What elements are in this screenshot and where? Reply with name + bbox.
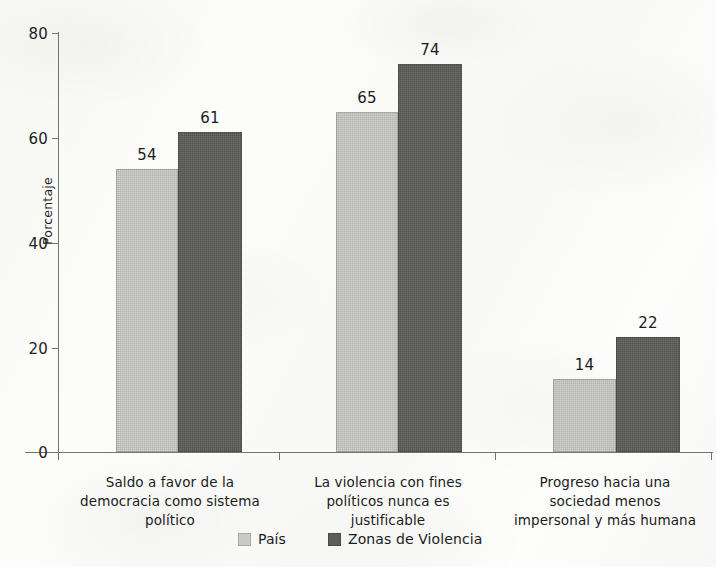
legend-swatch-pais-icon (238, 533, 251, 546)
x-tick-mark-3 (711, 452, 712, 460)
x-tick-mark-2 (495, 452, 496, 460)
x-category-label-2-line-3: impersonal y más humana (497, 511, 713, 530)
x-category-label-0-line-1: Saldo a favor de la (60, 473, 280, 492)
bar-zonas-2[interactable] (616, 337, 680, 452)
y-tick-mark-60 (52, 138, 59, 139)
bar-value-pais-2: 14 (553, 356, 616, 374)
x-axis-line (25, 452, 713, 453)
bar-texture (398, 64, 462, 452)
bar-texture (178, 132, 242, 452)
bar-value-zonas-2: 22 (616, 314, 680, 332)
bar-zonas-1[interactable] (398, 64, 462, 452)
bar-value-pais-0: 54 (116, 146, 178, 164)
y-tick-label-40: 40 (8, 235, 48, 253)
bar-zonas-0[interactable] (178, 132, 242, 452)
bar-texture (616, 337, 680, 452)
x-category-label-1-line-2: políticos nunca es (282, 492, 494, 511)
legend-swatch-zonas-icon (328, 533, 341, 546)
chart-page: Porcentaje 80 60 40 20 0 54 61 65 74 14 (0, 0, 716, 567)
y-tick-label-60: 60 (8, 130, 48, 148)
y-tick-mark-20 (52, 348, 59, 349)
bar-texture (553, 379, 616, 452)
x-category-label-2-line-1: Progreso hacia una (497, 473, 713, 492)
legend-item-pais[interactable]: País (238, 531, 286, 547)
bar-pais-0[interactable] (116, 169, 178, 452)
x-category-label-2-line-2: sociedad menos (497, 492, 713, 511)
y-tick-label-0: 0 (8, 444, 48, 462)
x-category-label-0: Saldo a favor de la democracia como sist… (60, 473, 280, 530)
x-category-label-2: Progreso hacia una sociedad menos impers… (497, 473, 713, 530)
legend-item-zonas[interactable]: Zonas de Violencia (328, 531, 482, 547)
y-tick-label-20: 20 (8, 340, 48, 358)
legend-label-pais: País (258, 531, 286, 547)
bar-value-zonas-0: 61 (178, 109, 242, 127)
x-category-label-0-line-2: democracia como sistema (60, 492, 280, 511)
y-tick-mark-40 (52, 243, 59, 244)
bar-value-zonas-1: 74 (398, 41, 462, 59)
bar-pais-2[interactable] (553, 379, 616, 452)
bar-pais-1[interactable] (336, 112, 398, 452)
bar-value-pais-1: 65 (336, 89, 398, 107)
bar-texture (116, 169, 178, 452)
x-category-label-1: La violencia con fines políticos nunca e… (282, 473, 494, 530)
x-tick-mark-1 (279, 452, 280, 460)
legend-label-zonas: Zonas de Violencia (348, 531, 482, 547)
x-category-label-1-line-1: La violencia con fines (282, 473, 494, 492)
bar-texture (336, 112, 398, 452)
x-category-label-0-line-3: político (60, 511, 280, 530)
y-tick-mark-80 (52, 33, 59, 34)
x-category-label-1-line-3: justificable (282, 511, 494, 530)
y-tick-label-80: 80 (8, 25, 48, 43)
x-tick-mark-0 (58, 452, 59, 460)
